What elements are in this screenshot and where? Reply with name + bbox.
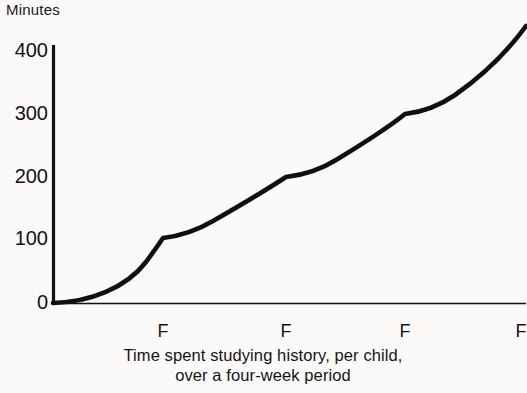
x-tick-label-1: F [158, 322, 169, 340]
data-series-line [53, 26, 526, 303]
x-tick-label-4: F [516, 322, 527, 340]
chart-caption: Time spent studying history, per child, … [13, 345, 513, 385]
caption-line-2: over a four-week period [13, 365, 513, 385]
x-tick-label-2: F [281, 322, 292, 340]
caption-line-1: Time spent studying history, per child, [13, 345, 513, 365]
x-tick-label-3: F [400, 322, 411, 340]
